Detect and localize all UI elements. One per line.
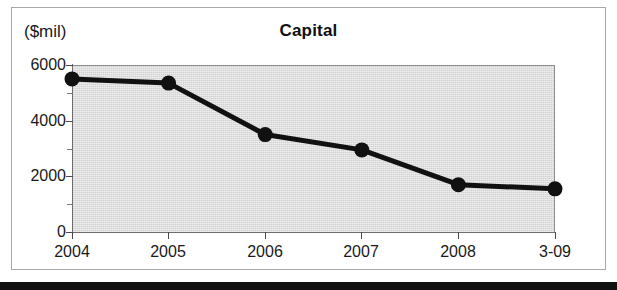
- data-point-2004: [65, 71, 80, 86]
- figure-root: ($mil) Capital 6000 4000 2000 0 2004 20: [0, 0, 617, 290]
- capital-series-line: [72, 79, 555, 189]
- capital-line-chart: ($mil) Capital 6000 4000 2000 0 2004 20: [0, 0, 617, 290]
- data-point-2007: [354, 142, 369, 157]
- data-point-2008: [451, 177, 466, 192]
- data-point-3-09: [548, 181, 563, 196]
- data-point-2006: [258, 127, 273, 142]
- page-rule: [0, 282, 617, 290]
- data-point-2005: [161, 76, 176, 91]
- capital-series-markers: [65, 71, 563, 196]
- series-layer: [0, 0, 617, 290]
